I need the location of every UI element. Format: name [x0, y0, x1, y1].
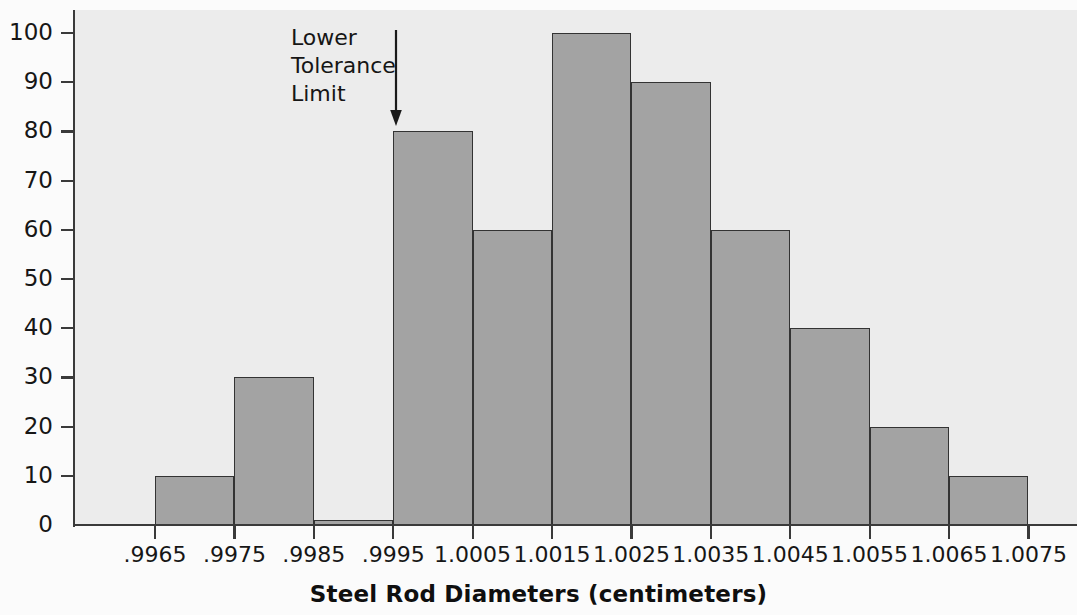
x-axis-line [73, 524, 1077, 526]
y-axis-tick-label: 60 [0, 218, 53, 241]
y-axis-tick-label: 90 [0, 70, 53, 93]
x-axis-tick [948, 526, 950, 539]
y-axis-tick [61, 426, 74, 428]
x-axis-tick [1027, 526, 1029, 539]
x-axis-tick [472, 526, 474, 539]
y-axis-tick-label: 10 [0, 464, 53, 487]
x-axis-tick-label: .9965 [124, 543, 187, 567]
x-axis-tick-label: .9985 [282, 543, 345, 567]
histogram-bar [473, 230, 552, 525]
y-axis-tick-label: 20 [0, 415, 53, 438]
y-axis-tick [61, 475, 74, 477]
histogram-bar [711, 230, 790, 525]
x-axis-title: Steel Rod Diameters (centimeters) [0, 581, 1077, 607]
x-axis-tick [154, 526, 156, 539]
x-axis-tick-label: 1.0075 [990, 543, 1067, 567]
x-axis-tick-label: .9995 [362, 543, 425, 567]
y-axis-tick [61, 180, 74, 182]
plot-area [75, 10, 1077, 525]
y-axis-tick [61, 32, 74, 34]
lower-tolerance-limit-label: Lower Tolerance Limit [291, 24, 396, 108]
y-axis-tick-label: 80 [0, 119, 53, 142]
y-axis-tick [61, 81, 74, 83]
histogram-bar [631, 82, 710, 525]
x-axis-tick [551, 526, 553, 539]
y-axis-tick [61, 327, 74, 329]
y-axis-tick-label: 30 [0, 365, 53, 388]
y-axis-tick-label: 40 [0, 316, 53, 339]
histogram-bar [552, 33, 631, 525]
x-axis-tick-label: 1.0025 [593, 543, 670, 567]
histogram-bar [234, 377, 313, 525]
x-axis-tick-label: 1.0045 [752, 543, 829, 567]
histogram-bar [790, 328, 869, 525]
x-axis-tick-label: 1.0055 [831, 543, 908, 567]
x-axis-tick [630, 526, 632, 539]
x-axis-tick-label: 1.0065 [911, 543, 988, 567]
histogram-bar [155, 476, 234, 525]
x-axis-tick [233, 526, 235, 539]
y-axis-tick [61, 278, 74, 280]
x-axis-tick-label: 1.0015 [514, 543, 591, 567]
y-axis-line [73, 10, 75, 527]
x-axis-tick [789, 526, 791, 539]
x-axis-tick [869, 526, 871, 539]
y-axis-tick [61, 376, 74, 378]
down-arrow-icon [388, 30, 404, 126]
y-axis-tick [61, 130, 74, 132]
x-axis-tick [313, 526, 315, 539]
x-axis-tick-label: 1.0005 [434, 543, 511, 567]
y-axis-tick-label: 100 [0, 21, 53, 44]
y-axis-tick-label: 0 [0, 513, 53, 536]
x-axis-tick [710, 526, 712, 539]
y-axis-tick-label: 50 [0, 267, 53, 290]
x-axis-tick [392, 526, 394, 539]
histogram-figure: Lower Tolerance Limit Steel Rod Diameter… [0, 0, 1077, 615]
y-axis-tick-label: 70 [0, 169, 53, 192]
histogram-bar [949, 476, 1028, 525]
x-axis-tick-label: .9975 [203, 543, 266, 567]
histogram-bar [393, 131, 472, 525]
histogram-bar [870, 427, 949, 525]
y-axis-tick [61, 229, 74, 231]
x-axis-tick-label: 1.0035 [672, 543, 749, 567]
